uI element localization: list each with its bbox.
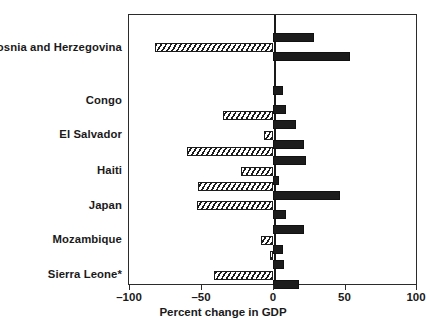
bar-positive bbox=[273, 120, 296, 129]
tickmark-4 bbox=[416, 285, 417, 290]
bar-positive bbox=[273, 176, 279, 185]
bar-positive bbox=[273, 140, 304, 149]
category-label-6: Sierra Leone* bbox=[48, 268, 122, 280]
bar-negative bbox=[270, 251, 273, 260]
bar-positive bbox=[273, 191, 340, 200]
bar-positive bbox=[273, 210, 286, 219]
bar-negative bbox=[198, 182, 273, 191]
category-label-1: Congo bbox=[86, 94, 122, 106]
tickmark-1 bbox=[201, 285, 202, 290]
bar-negative bbox=[214, 271, 273, 280]
bar-positive bbox=[273, 156, 306, 165]
bar-negative bbox=[261, 236, 273, 245]
category-label-5: Mozambique bbox=[53, 233, 122, 245]
bar-negative bbox=[187, 147, 273, 156]
x-axis-title: Percent change in GDP bbox=[0, 306, 430, 318]
x-axis-tick-labels: –100–50050100 bbox=[0, 291, 430, 307]
bar-positive bbox=[273, 260, 284, 269]
bar-positive bbox=[273, 33, 314, 42]
category-label-3: Haiti bbox=[97, 164, 122, 176]
bar-negative bbox=[155, 43, 273, 52]
bar-negative bbox=[197, 201, 273, 210]
category-axis-labels: Bosnia and HerzegovinaCongoEl SalvadorHa… bbox=[0, 14, 122, 285]
bar-negative bbox=[223, 111, 273, 120]
x-tick-label-2: 0 bbox=[270, 291, 276, 303]
tickmark-0 bbox=[129, 285, 130, 290]
x-axis-title-text: Percent change in GDP bbox=[159, 306, 286, 318]
gdp-change-bar-chart: Bosnia and HerzegovinaCongoEl SalvadorHa… bbox=[0, 0, 430, 321]
bar-positive bbox=[273, 105, 286, 114]
category-label-4: Japan bbox=[89, 199, 122, 211]
bar-positive bbox=[273, 225, 304, 234]
category-label-2: El Salvador bbox=[59, 128, 122, 140]
category-label-0: Bosnia and Herzegovina bbox=[0, 41, 122, 53]
bar-positive bbox=[273, 86, 283, 95]
bars-layer bbox=[128, 14, 417, 285]
x-tick-label-3: 50 bbox=[338, 291, 351, 303]
bar-positive bbox=[273, 52, 350, 61]
tickmark-3 bbox=[345, 285, 346, 290]
x-tick-label-1: –50 bbox=[191, 291, 210, 303]
bar-positive bbox=[273, 245, 283, 254]
bar-negative bbox=[241, 167, 273, 176]
bar-negative bbox=[264, 131, 273, 140]
tickmark-2 bbox=[273, 285, 274, 290]
x-tick-label-0: –100 bbox=[116, 291, 142, 303]
x-tick-label-4: 100 bbox=[406, 291, 425, 303]
